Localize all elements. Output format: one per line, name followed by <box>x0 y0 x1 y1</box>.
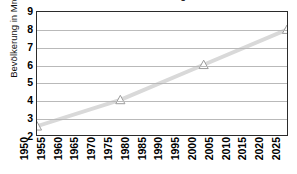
x-tick-label: 1970 <box>86 137 97 171</box>
y-tick-label: 7 <box>16 42 33 52</box>
x-tick-label: 1955 <box>36 137 47 171</box>
gridline <box>37 66 287 67</box>
x-tick-label: 1960 <box>53 137 64 171</box>
y-tick-label: 5 <box>16 77 33 87</box>
y-tick-label: 6 <box>16 60 33 70</box>
population-line-chart: Weltbevölkerung Bevölkerung in Mrd. 9876… <box>0 0 297 174</box>
x-tick-label: 1965 <box>69 137 80 171</box>
y-axis-tick-labels: 98765432 <box>16 5 33 137</box>
x-tick-label: 1950 <box>19 137 30 171</box>
x-axis-tick-labels: 1950195519601965197019751980198519901995… <box>36 137 288 174</box>
plot-area <box>36 11 288 136</box>
x-tick-label: 1990 <box>153 137 164 171</box>
x-tick-label: 1985 <box>137 137 148 171</box>
y-tick-label: 9 <box>16 6 33 16</box>
gridline <box>37 30 287 31</box>
x-tick-label: 1995 <box>170 137 181 171</box>
y-tick-label: 8 <box>16 24 33 34</box>
y-tick-label: 3 <box>16 113 33 123</box>
x-tick-label: 2015 <box>237 137 248 171</box>
gridline <box>37 101 287 102</box>
x-tick-label: 2025 <box>271 137 282 171</box>
chart-title: Weltbevölkerung <box>0 0 297 1</box>
series-line <box>37 30 287 127</box>
x-tick-label: 1980 <box>120 137 131 171</box>
x-tick-label: 1975 <box>103 137 114 171</box>
gridline <box>37 83 287 84</box>
y-tick-label: 4 <box>16 95 33 105</box>
x-tick-label: 2020 <box>254 137 265 171</box>
x-tick-label: 2005 <box>204 137 215 171</box>
x-tick-label: 2000 <box>187 137 198 171</box>
gridline <box>37 119 287 120</box>
gridline <box>37 48 287 49</box>
x-tick-label: 2010 <box>221 137 232 171</box>
